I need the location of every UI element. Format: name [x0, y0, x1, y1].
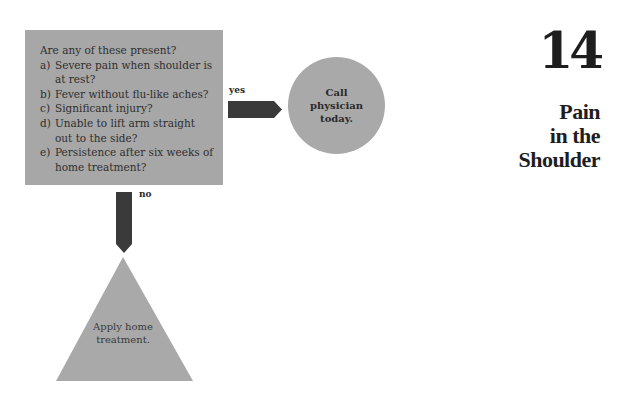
- symptom-text: Unable to lift arm straight out to the s…: [55, 116, 215, 145]
- symptom-text: Severe pain when shoulder is at rest?: [55, 58, 215, 87]
- symptom-letter: b): [40, 87, 55, 102]
- symptom-item: b)Fever without flu-like aches?: [40, 87, 223, 102]
- arrow-down-icon: [116, 192, 132, 253]
- symptom-letter: a): [40, 58, 55, 87]
- home-treatment-outcome: [56, 257, 194, 381]
- symptom-list: a)Severe pain when shoulder is at rest? …: [40, 58, 223, 175]
- symptom-letter: c): [40, 101, 55, 116]
- call-physician-outcome: Call physician today.: [288, 57, 385, 154]
- symptom-text: Fever without flu-like aches?: [55, 87, 215, 102]
- symptom-item: c)Significant injury?: [40, 101, 223, 116]
- symptom-item: d)Unable to lift arm straight out to the…: [40, 116, 223, 145]
- symptom-item: a)Severe pain when shoulder is at rest?: [40, 58, 223, 87]
- symptom-text: Persistence after six weeks of home trea…: [55, 145, 215, 174]
- chapter-title-line: Shoulder: [518, 148, 600, 172]
- yes-outcome-text: Call physician today.: [302, 86, 372, 125]
- arrow-right-icon: [228, 101, 282, 118]
- yes-label: yes: [229, 85, 245, 95]
- symptom-item: e)Persistence after six weeks of home tr…: [40, 145, 223, 174]
- symptom-letter: d): [40, 116, 55, 145]
- chapter-title: Pain in the Shoulder: [518, 100, 600, 172]
- chapter-title-line: in the: [518, 124, 600, 148]
- question-title: Are any of these present?: [40, 43, 223, 58]
- symptom-text: Significant injury?: [55, 101, 215, 116]
- chapter-title-line: Pain: [518, 100, 600, 124]
- chapter-number: 14: [538, 26, 600, 76]
- no-outcome-text: Apply home treatment.: [86, 320, 160, 346]
- symptom-letter: e): [40, 145, 55, 174]
- no-label: no: [139, 189, 152, 199]
- question-box: Are any of these present? a)Severe pain …: [25, 30, 223, 185]
